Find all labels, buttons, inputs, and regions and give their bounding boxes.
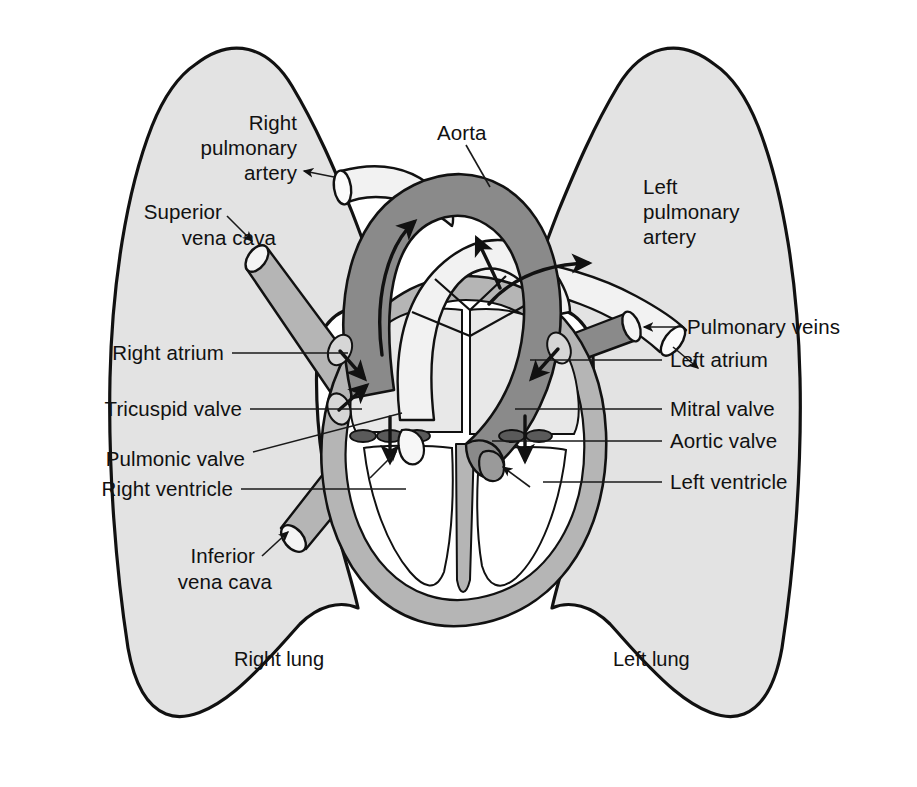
label-inferior-vena-cava-line2: vena cava: [178, 570, 273, 593]
label-right-ventricle: Right ventricle: [102, 477, 233, 500]
anatomy-diagram-figure: Right pulmonary artery Superior vena cav…: [0, 0, 917, 787]
label-right-pulmonary-artery-line1: Right: [249, 111, 298, 134]
label-pulmonary-veins: Pulmonary veins: [687, 315, 840, 338]
label-aortic-valve: Aortic valve: [670, 429, 777, 452]
label-mitral-valve: Mitral valve: [670, 397, 775, 420]
label-right-lung: Right lung: [234, 648, 324, 670]
heart-lungs-svg: Right pulmonary artery Superior vena cav…: [0, 0, 917, 787]
label-right-pulmonary-artery-line2: pulmonary: [200, 136, 297, 159]
label-pulmonic-valve: Pulmonic valve: [106, 447, 245, 470]
label-left-ventricle: Left ventricle: [670, 470, 788, 493]
label-left-pulmonary-artery-line3: artery: [643, 225, 697, 248]
label-tricuspid-valve: Tricuspid valve: [105, 397, 242, 420]
label-left-pulmonary-artery-line1: Left: [643, 175, 678, 198]
label-left-pulmonary-artery-line2: pulmonary: [643, 200, 740, 223]
label-right-pulmonary-artery-line3: artery: [244, 161, 298, 184]
aortic-valve-cusp: [479, 451, 504, 481]
label-left-atrium: Left atrium: [670, 348, 768, 371]
label-superior-vena-cava-line1: Superior: [144, 200, 222, 223]
label-aorta: Aorta: [437, 121, 487, 144]
label-left-lung: Left lung: [613, 648, 690, 670]
label-right-atrium: Right atrium: [112, 341, 224, 364]
label-superior-vena-cava-line2: vena cava: [182, 226, 277, 249]
label-inferior-vena-cava-line1: Inferior: [190, 544, 255, 567]
